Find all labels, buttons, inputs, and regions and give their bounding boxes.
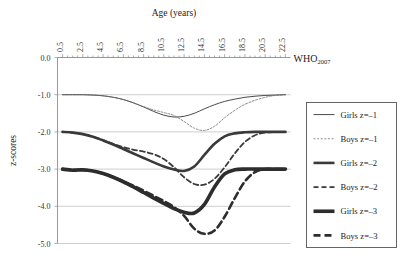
y-tick-label: -5.0 xyxy=(38,240,51,249)
x-tick-label: 14.5 xyxy=(197,38,206,52)
x-tick-label: 8.5 xyxy=(137,42,146,52)
legend-label: Girls z=–1 xyxy=(341,110,378,120)
y-tick-label: 0.0 xyxy=(41,54,51,63)
x-tick-label: 12.5 xyxy=(177,38,186,52)
x-tick-label: 6.5 xyxy=(116,42,125,52)
y-tick-label: -2.0 xyxy=(38,128,51,137)
x-tick-label: 20.5 xyxy=(258,38,267,52)
legend-label: Girls z=–2 xyxy=(341,158,378,168)
who-annotation-text: WHO xyxy=(294,53,318,64)
x-tick-label: 22.5 xyxy=(278,38,287,52)
legend-box xyxy=(307,103,397,248)
legend: Girls z=–1Boys z=–1Girls z=–2Boys z=–2Gi… xyxy=(307,103,397,248)
series-line xyxy=(63,132,286,185)
series-line xyxy=(63,95,286,131)
x-tick-label: 4.5 xyxy=(96,42,105,52)
x-tick-label: 18.5 xyxy=(238,38,247,52)
y-tick-label: -1.0 xyxy=(38,91,51,100)
legend-label: Boys z=–1 xyxy=(341,134,378,144)
x-tick-label: 16.5 xyxy=(218,38,227,52)
x-tick-marks xyxy=(63,54,286,57)
axes xyxy=(58,58,291,244)
legend-label: Boys z=–3 xyxy=(341,231,378,241)
data-series xyxy=(63,95,286,234)
series-line xyxy=(63,95,286,117)
chart-canvas: 0.52.54.56.58.510.512.514.516.518.520.52… xyxy=(0,0,401,265)
x-tick-label: 0.5 xyxy=(56,42,65,52)
x-tick-label: 2.5 xyxy=(76,42,85,52)
y-tick-label: -3.0 xyxy=(38,165,51,174)
x-axis-title: Age (years) xyxy=(152,8,197,19)
series-line xyxy=(63,169,286,214)
series-line xyxy=(63,169,286,234)
x-tick-label: 10.5 xyxy=(157,38,166,52)
who-annotation-year: 2007 xyxy=(317,58,331,65)
y-tick-labels: 0.0-1.0-2.0-3.0-4.0-5.0 xyxy=(38,54,58,249)
who-annotation: WHO2007 xyxy=(294,53,332,66)
legend-label: Boys z=–2 xyxy=(341,182,378,192)
y-axis-title: z-scores xyxy=(8,135,18,166)
x-tick-labels: 0.52.54.56.58.510.512.514.516.518.520.52… xyxy=(56,38,288,52)
legend-label: Girls z=–3 xyxy=(341,206,378,216)
y-tick-label: -4.0 xyxy=(38,202,51,211)
chart-figure: 0.52.54.56.58.510.512.514.516.518.520.52… xyxy=(0,0,401,265)
